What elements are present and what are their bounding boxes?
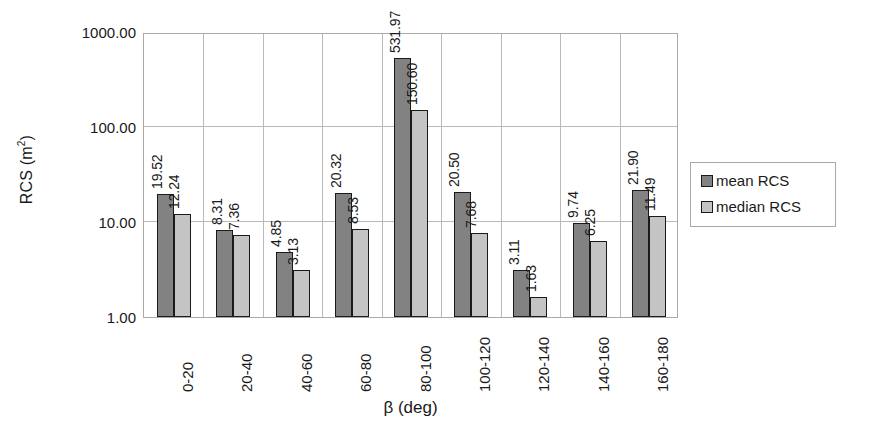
- bar-value-label: 8.31: [210, 198, 224, 225]
- bar-value-label: 19.52: [150, 155, 164, 190]
- bar-pair: 3.111.63: [513, 34, 547, 317]
- bar-pair: 9.746.25: [573, 34, 607, 317]
- x-axis-tick-label: 160-180: [655, 337, 670, 392]
- x-axis-tick-label: 20-40: [239, 354, 254, 392]
- legend-swatch-icon: [701, 175, 713, 187]
- x-axis-tick-label: 0-20: [180, 362, 195, 392]
- bar-value-label: 20.32: [329, 153, 343, 188]
- bar-group: 9.746.25: [560, 34, 619, 317]
- y-axis-tick-label: 1.00: [44, 310, 136, 325]
- x-axis-tick-label: 60-80: [358, 354, 373, 392]
- bar-group: 8.317.36: [203, 34, 262, 317]
- bar-pair: 19.5212.24: [157, 34, 191, 317]
- x-axis-tick-label: 120-140: [536, 337, 551, 392]
- bar-value-label: 7.68: [464, 201, 478, 228]
- bar-value-label: 1.63: [524, 265, 538, 292]
- bar-value-label: 8.53: [346, 197, 360, 224]
- bar-group: 19.5212.24: [144, 34, 203, 317]
- x-axis-tick-label: 140-160: [596, 337, 611, 392]
- bar-mean[interactable]: 9.74: [573, 223, 590, 317]
- chart-legend: mean RCSmedian RCS: [690, 162, 836, 227]
- bar-value-label: 21.90: [626, 150, 640, 185]
- bar-pair: 8.317.36: [216, 34, 250, 317]
- x-axis-tick-labels: 0-2020-4040-6060-8080-100100-120120-1401…: [143, 320, 678, 400]
- bar-median[interactable]: 1.63: [530, 297, 547, 317]
- bar-group: 20.507.68: [441, 34, 500, 317]
- bar-group: 531.97150.60: [382, 34, 441, 317]
- bar-value-label: 12.24: [167, 174, 181, 209]
- y-axis-title: RCS (m2): [16, 100, 35, 240]
- rcs-bar-chart: RCS (m2) 1000.00100.0010.001.00 19.5212.…: [0, 0, 875, 436]
- bar-value-label: 20.50: [447, 153, 461, 188]
- x-axis-tick-label: 80-100: [418, 345, 433, 392]
- bar-median[interactable]: 7.36: [233, 235, 250, 317]
- plot-area: 19.5212.248.317.364.853.1320.328.53531.9…: [143, 33, 678, 318]
- bar-group: 3.111.63: [501, 34, 560, 317]
- bar-value-label: 3.11: [507, 239, 521, 265]
- legend-item-label: median RCS: [716, 198, 801, 216]
- bar-mean[interactable]: 8.31: [216, 230, 233, 317]
- legend-item[interactable]: mean RCS: [701, 172, 827, 190]
- bar-median[interactable]: 6.25: [590, 241, 607, 317]
- bar-mean[interactable]: 19.52: [157, 194, 174, 317]
- bar-value-label: 9.74: [566, 191, 580, 218]
- bar-median[interactable]: 11.49: [649, 216, 666, 317]
- y-axis-tick-label: 10.00: [44, 215, 136, 230]
- bar-median[interactable]: 12.24: [174, 214, 191, 317]
- x-axis-title: β (deg): [143, 398, 678, 418]
- y-axis-title-superscript: 2: [16, 141, 27, 147]
- bar-value-label: 4.85: [269, 220, 283, 247]
- bar-group: 20.328.53: [322, 34, 381, 317]
- y-axis-title-main: RCS (m: [18, 146, 35, 204]
- bar-value-label: 531.97: [388, 11, 402, 53]
- y-axis-tick-labels: 1000.00100.0010.001.00: [44, 0, 136, 436]
- y-axis-tick-label: 1000.00: [44, 25, 136, 40]
- bar-value-label: 150.60: [405, 63, 419, 105]
- bar-median[interactable]: 150.60: [411, 110, 428, 317]
- bar-median[interactable]: 7.68: [471, 233, 488, 317]
- bar-value-label: 6.25: [583, 210, 597, 237]
- bar-value-label: 7.36: [227, 203, 241, 230]
- bar-median[interactable]: 3.13: [293, 270, 310, 317]
- bar-median[interactable]: 8.53: [352, 229, 369, 317]
- bar-group: 21.9011.49: [620, 34, 679, 317]
- bar-group: 4.853.13: [263, 34, 322, 317]
- bar-pair: 21.9011.49: [632, 34, 666, 317]
- bar-value-label: 3.13: [286, 238, 300, 265]
- y-axis-tick-label: 100.00: [44, 120, 136, 135]
- bar-value-label: 11.49: [643, 178, 657, 212]
- x-axis-tick-label: 40-60: [299, 354, 314, 392]
- x-axis-tick-label: 100-120: [477, 337, 492, 392]
- bar-pair: 20.328.53: [335, 34, 369, 317]
- bar-pair: 20.507.68: [454, 34, 488, 317]
- bar-pair: 4.853.13: [276, 34, 310, 317]
- bar-pair: 531.97150.60: [394, 34, 428, 317]
- legend-item-label: mean RCS: [716, 172, 789, 190]
- y-axis-title-tail: ): [18, 135, 35, 141]
- legend-item[interactable]: median RCS: [701, 198, 827, 216]
- legend-swatch-icon: [701, 201, 713, 213]
